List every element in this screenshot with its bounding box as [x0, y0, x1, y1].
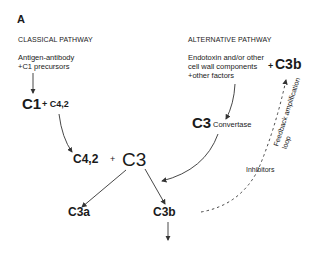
alternative-trigger-line3: +other factors — [188, 71, 234, 80]
c3a-label: C3a — [68, 206, 90, 218]
plus-c3b-sign: + — [268, 62, 273, 71]
arrow-c42-curve — [59, 114, 72, 152]
classical-pathway-title: CLASSICAL PATHWAY — [18, 36, 93, 43]
c3b-label: C3b — [153, 206, 176, 218]
feedback-loop-dashed — [201, 80, 286, 212]
c3-convertase-c3: C3 — [192, 115, 211, 130]
arrow-convertase-to-c3 — [162, 134, 218, 181]
c1-label: C1 — [22, 96, 41, 111]
arrow-c3-to-c3a — [82, 170, 126, 207]
c3b-feedback-label: C3b — [275, 57, 301, 71]
alternative-trigger-line2: cell wall components — [188, 62, 257, 71]
c42-small-label: + C4,2 — [42, 100, 69, 109]
alternative-trigger-line1: Endotoxin and/or other — [188, 53, 264, 62]
classical-trigger-line2: +C1 precursors — [18, 62, 69, 71]
c3-label: C3 — [122, 150, 146, 169]
classical-trigger-line1: Antigen-antibody — [18, 53, 74, 62]
arrow-endotoxin-to-convertase — [226, 84, 235, 119]
plus-sign: + — [110, 155, 115, 164]
panel-label: A — [17, 14, 25, 25]
c42-label: C4,2 — [73, 153, 98, 165]
c3-convertase-label: Convertase — [213, 121, 251, 129]
inhibitors-label: Inhibitors — [246, 166, 274, 173]
alternative-pathway-title: ALTERNATIVE PATHWAY — [188, 36, 271, 43]
arrow-c3-to-c3b — [145, 169, 165, 204]
